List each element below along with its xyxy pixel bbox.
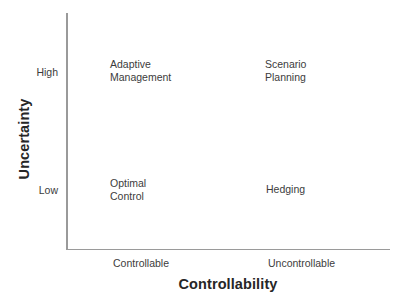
x-axis-line — [66, 249, 390, 251]
x-tick-label-uncontrollable: Uncontrollable — [268, 257, 335, 269]
y-tick-label-high: High — [0, 66, 58, 78]
quadrant-label-scenario-planning: Scenario Planning — [265, 58, 306, 84]
y-axis-title-text: Uncertainty — [16, 98, 32, 179]
quadrant-matrix-figure: Uncertainty Controllability High Low Con… — [0, 0, 404, 299]
y-tick-label-low: Low — [0, 184, 58, 196]
quadrant-label-optimal-control: Optimal Control — [110, 177, 146, 203]
y-axis-line — [66, 13, 68, 250]
y-axis-title: Uncertainty — [0, 0, 48, 299]
quadrant-label-hedging: Hedging — [266, 183, 305, 196]
x-tick-label-controllable: Controllable — [113, 257, 169, 269]
quadrant-label-adaptive-management: Adaptive Management — [110, 58, 171, 84]
x-axis-title: Controllability — [66, 276, 390, 292]
